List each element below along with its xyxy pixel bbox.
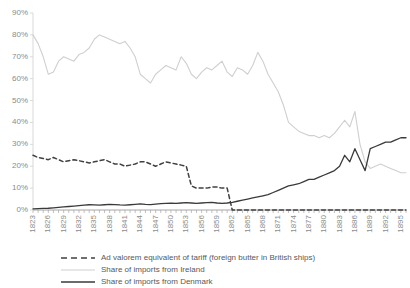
series-line <box>33 35 406 173</box>
series-line <box>33 138 406 209</box>
legend-label-ireland: Share of imports from Ireland <box>101 265 205 275</box>
legend-label-tariff: Ad valorem equivalent of tariff (foreign… <box>101 253 315 263</box>
dashed-line-icon <box>60 253 96 263</box>
legend-item: Share of imports from Denmark <box>60 276 406 288</box>
legend-item: Share of imports from Ireland <box>60 264 406 276</box>
chart-legend: Ad valorem equivalent of tariff (foreign… <box>60 252 406 288</box>
tick-marks <box>30 13 406 213</box>
legend-label-denmark: Share of imports from Denmark <box>101 277 213 287</box>
data-series-group <box>33 35 406 210</box>
line-chart: 0%10%20%30%40%50%60%70%80%90% 1823182618… <box>0 0 410 288</box>
axis-lines <box>33 13 406 210</box>
light-line-icon <box>60 265 96 275</box>
dark-line-icon <box>60 277 96 287</box>
legend-item: Ad valorem equivalent of tariff (foreign… <box>60 252 406 264</box>
plot-area <box>0 0 410 288</box>
series-line <box>33 155 406 210</box>
